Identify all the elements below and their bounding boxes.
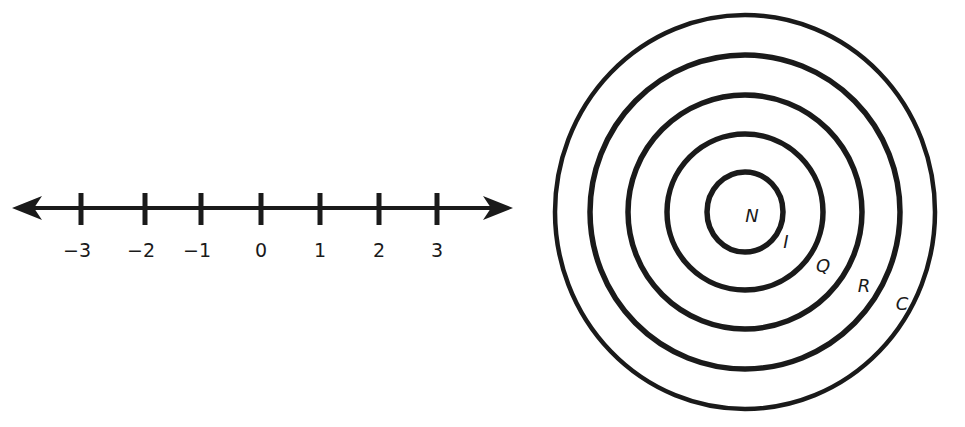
number-line: −3−2−10123 [12,193,513,261]
tick-label: −2 [127,239,155,261]
set-label-n: N [745,205,758,226]
set-label-q: Q [816,255,830,276]
tick-label: 2 [373,239,385,261]
tick-label: 0 [255,239,267,261]
set-label-c: C [896,293,909,314]
tick-label: 3 [431,239,443,261]
tick-label: 1 [314,239,326,261]
number-line-tick-labels: −3−2−10123 [63,239,443,261]
figure-canvas: −3−2−10123 NIQRC [0,0,965,427]
set-label-i: I [783,231,788,252]
set-label-r: R [858,275,871,296]
nested-number-sets: NIQRC [555,15,935,409]
figure: −3−2−10123 NIQRC [0,0,965,427]
tick-label: −1 [183,239,211,261]
tick-label: −3 [63,239,91,261]
